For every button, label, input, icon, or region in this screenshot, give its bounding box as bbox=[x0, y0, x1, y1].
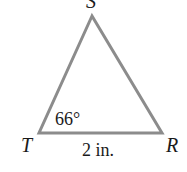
side-label-tr: 2 in. bbox=[82, 140, 114, 160]
angle-label-t: 66° bbox=[55, 109, 80, 129]
vertex-label-r: R bbox=[165, 134, 178, 156]
triangle-diagram: S T R 66° 2 in. bbox=[0, 0, 187, 172]
vertex-label-s: S bbox=[86, 0, 96, 12]
vertex-label-t: T bbox=[21, 134, 34, 156]
